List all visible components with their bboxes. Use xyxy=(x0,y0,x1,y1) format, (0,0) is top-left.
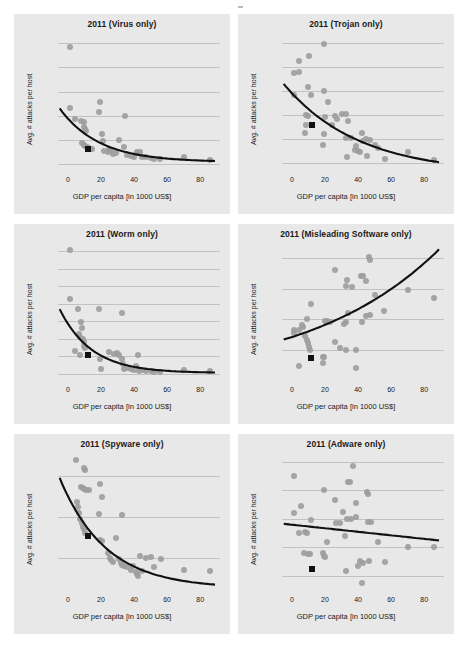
x-axis-tick-label: 40 xyxy=(345,596,371,603)
regression-curve xyxy=(58,246,220,380)
x-axis-tick-label: 80 xyxy=(187,386,213,393)
x-axis-tick-label: 20 xyxy=(312,176,338,183)
x-axis-tick-label: 40 xyxy=(345,176,371,183)
x-axis-tick-label: 60 xyxy=(154,596,180,603)
x-axis-tick-label: 60 xyxy=(378,176,404,183)
plot-area xyxy=(282,246,444,380)
regression-curve xyxy=(58,36,220,170)
regression-curve xyxy=(282,36,444,170)
chart-panel: 2011 (Spyware only)020406080GDP per capi… xyxy=(14,434,230,634)
x-axis-tick-label: 0 xyxy=(279,596,305,603)
x-axis-tick-label: 0 xyxy=(55,596,81,603)
x-axis-label: GDP per capita [in 1000 US$] xyxy=(238,612,454,621)
chart-panel: 2011 (Worm only)020406080GDP per capita … xyxy=(14,224,230,424)
x-axis-label: GDP per capita [in 1000 US$] xyxy=(238,402,454,411)
scan-artifact xyxy=(238,6,243,8)
x-axis-tick-label: 80 xyxy=(187,176,213,183)
y-axis-label: Avg. # attacks per host xyxy=(26,74,33,145)
x-axis-tick-label: 40 xyxy=(121,386,147,393)
y-axis-label: Avg. # attacks per host xyxy=(250,74,257,145)
y-axis-label: Avg. # attacks per host xyxy=(250,284,257,355)
x-axis-tick-label: 20 xyxy=(88,386,114,393)
x-axis-label: GDP per capita [in 1000 US$] xyxy=(14,612,230,621)
regression-curve xyxy=(282,456,444,590)
x-axis-tick-label: 60 xyxy=(154,386,180,393)
y-axis-label: Avg. # attacks per host xyxy=(250,494,257,565)
x-axis-tick-label: 40 xyxy=(345,386,371,393)
x-axis-tick-label: 80 xyxy=(187,596,213,603)
x-axis-tick-label: 20 xyxy=(312,386,338,393)
panel-title: 2011 (Worm only) xyxy=(14,229,230,239)
regression-curve xyxy=(58,456,220,590)
x-axis-label: GDP per capita [in 1000 US$] xyxy=(14,402,230,411)
x-axis-tick-label: 60 xyxy=(378,596,404,603)
chart-panel: 2011 (Adware only)020406080GDP per capit… xyxy=(238,434,454,634)
y-axis-label: Avg. # attacks per host xyxy=(26,494,33,565)
x-axis-tick-label: 80 xyxy=(411,596,437,603)
panel-title: 2011 (Adware only) xyxy=(238,439,454,449)
panel-title: 2011 (Misleading Software only) xyxy=(238,229,454,239)
chart-panel: 2011 (Misleading Software only)020406080… xyxy=(238,224,454,424)
x-axis-label: GDP per capita [in 1000 US$] xyxy=(14,192,230,201)
plot-area xyxy=(282,456,444,590)
regression-curve xyxy=(282,246,444,380)
chart-panel: 2011 (Trojan only)020406080GDP per capit… xyxy=(238,14,454,214)
plot-area xyxy=(282,36,444,170)
plot-area xyxy=(58,456,220,590)
x-axis-tick-label: 20 xyxy=(88,176,114,183)
panel-title: 2011 (Spyware only) xyxy=(14,439,230,449)
panel-title: 2011 (Trojan only) xyxy=(238,19,454,29)
x-axis-tick-label: 60 xyxy=(378,386,404,393)
x-axis-tick-label: 40 xyxy=(121,596,147,603)
figure-panel-grid: 0123452011 (Virus only)020406080GDP per … xyxy=(0,0,464,646)
x-axis-tick-label: 20 xyxy=(312,596,338,603)
y-axis-label: Avg. # attacks per host xyxy=(26,284,33,355)
x-axis-tick-label: 0 xyxy=(55,176,81,183)
x-axis-label: GDP per capita [in 1000 US$] xyxy=(238,192,454,201)
plot-area xyxy=(58,246,220,380)
x-axis-tick-label: 80 xyxy=(411,386,437,393)
x-axis-tick-label: 0 xyxy=(279,176,305,183)
plot-area xyxy=(58,36,220,170)
x-axis-tick-label: 0 xyxy=(55,386,81,393)
chart-panel: 2011 (Virus only)020406080GDP per capita… xyxy=(14,14,230,214)
x-axis-tick-label: 0 xyxy=(279,386,305,393)
x-axis-tick-label: 60 xyxy=(154,176,180,183)
x-axis-tick-label: 40 xyxy=(121,176,147,183)
x-axis-tick-label: 20 xyxy=(88,596,114,603)
x-axis-tick-label: 80 xyxy=(411,176,437,183)
panel-title: 2011 (Virus only) xyxy=(14,19,230,29)
